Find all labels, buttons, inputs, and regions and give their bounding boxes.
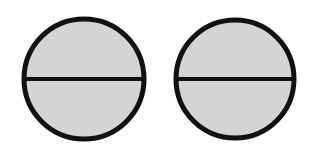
right-divided-circle: Right circle with horizontal divider <box>176 20 294 138</box>
diagram-svg: Left circle with horizontal divider Righ… <box>0 0 312 144</box>
left-divided-circle: Left circle with horizontal divider <box>24 19 144 139</box>
diagram-canvas: Two divided circles Left circle with hor… <box>0 0 312 144</box>
